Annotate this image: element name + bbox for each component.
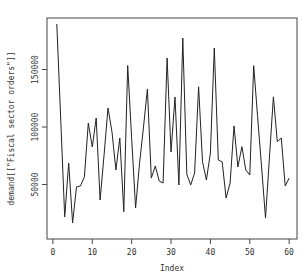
- x-tick-label: 20: [127, 248, 137, 257]
- x-tick-label: 10: [87, 248, 97, 257]
- x-tick-label: 40: [206, 248, 216, 257]
- series-line: [57, 24, 289, 223]
- y-tick-label: 100000: [31, 112, 40, 141]
- x-tick-label: 50: [245, 248, 255, 257]
- y-axis-label: demand[["Fiscal sector orders"]]: [7, 51, 16, 205]
- y-tick-label: 50000: [31, 172, 40, 196]
- x-tick-label: 30: [166, 248, 176, 257]
- plot-frame: [47, 18, 297, 239]
- series-layer: [56, 24, 289, 224]
- x-axis-label: Index: [160, 264, 184, 273]
- line-chart: 0102030405060 50000100000150000 Index de…: [0, 0, 308, 278]
- x-tick-label: 60: [284, 248, 294, 257]
- x-tick-label: 0: [50, 248, 55, 257]
- y-axis: 50000100000150000: [31, 55, 47, 197]
- y-tick-label: 150000: [31, 55, 40, 84]
- x-axis: 0102030405060: [50, 239, 294, 257]
